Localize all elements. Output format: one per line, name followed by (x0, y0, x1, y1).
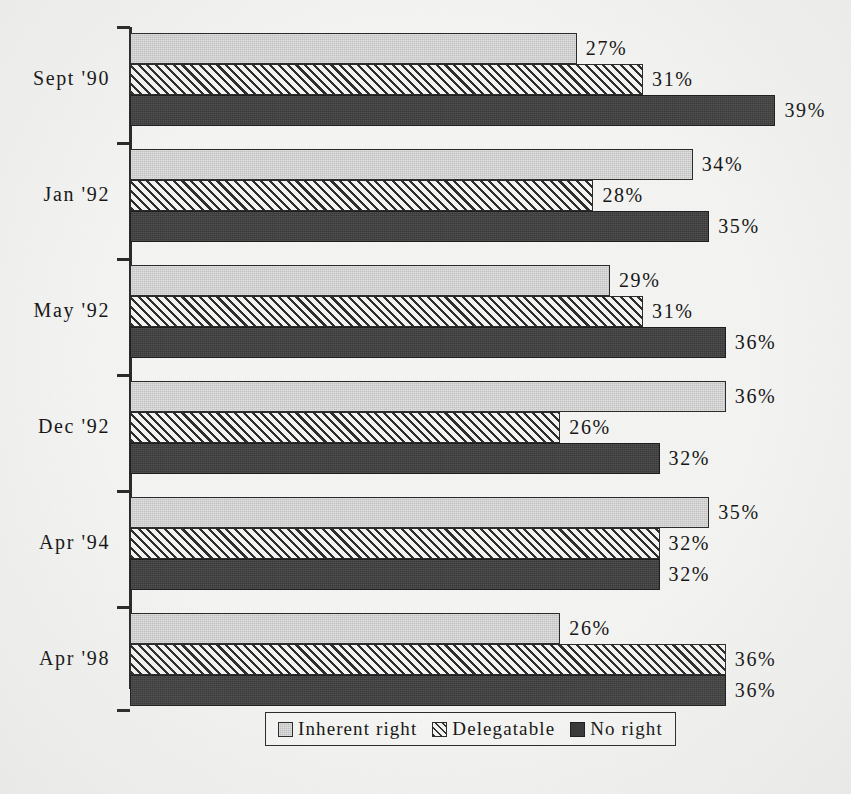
bar-row: 35% (130, 211, 851, 242)
bar-group: May '9229%31%36% (0, 265, 851, 358)
legend-swatch-icon (432, 722, 447, 737)
bar-no-right[interactable] (130, 327, 726, 358)
category-label: Apr '98 (0, 647, 110, 670)
category-axis-tick (117, 606, 130, 609)
bar-value-label: 26% (569, 412, 610, 443)
legend-item-delegatable[interactable]: Delegatable (432, 718, 555, 740)
bar-value-label: 31% (652, 296, 693, 327)
bar-row: 31% (130, 296, 851, 327)
category-label: Jan '92 (0, 183, 110, 206)
bar-no-right[interactable] (130, 211, 709, 242)
legend-item-label: Delegatable (452, 718, 555, 740)
bar-delegatable[interactable] (130, 180, 593, 211)
bar-group: Jan '9234%28%35% (0, 149, 851, 242)
bar-value-label: 36% (735, 644, 776, 675)
bar-value-label: 36% (735, 675, 776, 706)
bar-inherent-right[interactable] (130, 613, 560, 644)
bar-value-label: 35% (718, 497, 759, 528)
bar-delegatable[interactable] (130, 528, 660, 559)
bar-value-label: 31% (652, 64, 693, 95)
bar-delegatable[interactable] (130, 64, 643, 95)
legend-item-no-right[interactable]: No right (570, 718, 663, 740)
bar-inherent-right[interactable] (130, 497, 709, 528)
bar-row: 34% (130, 149, 851, 180)
bar-row: 36% (130, 381, 851, 412)
bar-value-label: 32% (669, 443, 710, 474)
chart-legend: Inherent rightDelegatableNo right (265, 712, 676, 746)
legend-item-label: No right (590, 718, 663, 740)
bar-no-right[interactable] (130, 95, 775, 126)
bar-no-right[interactable] (130, 443, 660, 474)
bar-value-label: 26% (569, 613, 610, 644)
bar-group: Dec '9236%26%32% (0, 381, 851, 474)
bar-value-label: 39% (784, 95, 825, 126)
bar-row: 26% (130, 613, 851, 644)
category-label: Dec '92 (0, 415, 110, 438)
bar-inherent-right[interactable] (130, 33, 577, 64)
bar-row: 32% (130, 443, 851, 474)
legend-item-label: Inherent right (298, 718, 417, 740)
bar-value-label: 29% (619, 265, 660, 296)
category-axis-tick (117, 26, 130, 29)
bar-row: 32% (130, 528, 851, 559)
bar-value-label: 36% (735, 381, 776, 412)
category-axis-tick-end (117, 709, 130, 712)
bar-row: 36% (130, 644, 851, 675)
bar-group: Apr '9826%36%36% (0, 613, 851, 706)
bar-value-label: 32% (669, 528, 710, 559)
bar-row: 31% (130, 64, 851, 95)
bar-value-label: 32% (669, 559, 710, 590)
category-axis-tick (117, 374, 130, 377)
bar-row: 36% (130, 327, 851, 358)
bar-delegatable[interactable] (130, 412, 560, 443)
bar-group: Sept '9027%31%39% (0, 33, 851, 126)
bar-row: 28% (130, 180, 851, 211)
bar-no-right[interactable] (130, 675, 726, 706)
bar-value-label: 34% (702, 149, 743, 180)
bar-row: 29% (130, 265, 851, 296)
bar-row: 36% (130, 675, 851, 706)
bar-value-label: 35% (718, 211, 759, 242)
bar-delegatable[interactable] (130, 644, 726, 675)
category-label: Sept '90 (0, 67, 110, 90)
bar-delegatable[interactable] (130, 296, 643, 327)
bar-value-label: 27% (586, 33, 627, 64)
legend-item-inherent-right[interactable]: Inherent right (278, 718, 417, 740)
category-label: Apr '94 (0, 531, 110, 554)
category-label: May '92 (0, 299, 110, 322)
bar-no-right[interactable] (130, 559, 660, 590)
bar-inherent-right[interactable] (130, 149, 693, 180)
bar-value-label: 28% (602, 180, 643, 211)
bar-row: 32% (130, 559, 851, 590)
bar-row: 39% (130, 95, 851, 126)
category-axis-tick (117, 142, 130, 145)
legend-swatch-icon (278, 722, 293, 737)
category-axis-tick (117, 258, 130, 261)
category-axis-tick (117, 490, 130, 493)
bar-chart: Sept '9027%31%39%Jan '9234%28%35%May '92… (0, 0, 851, 794)
bar-row: 26% (130, 412, 851, 443)
bar-row: 35% (130, 497, 851, 528)
bar-inherent-right[interactable] (130, 265, 610, 296)
bar-inherent-right[interactable] (130, 381, 726, 412)
bar-row: 27% (130, 33, 851, 64)
bar-group: Apr '9435%32%32% (0, 497, 851, 590)
bar-value-label: 36% (735, 327, 776, 358)
legend-swatch-icon (570, 722, 585, 737)
